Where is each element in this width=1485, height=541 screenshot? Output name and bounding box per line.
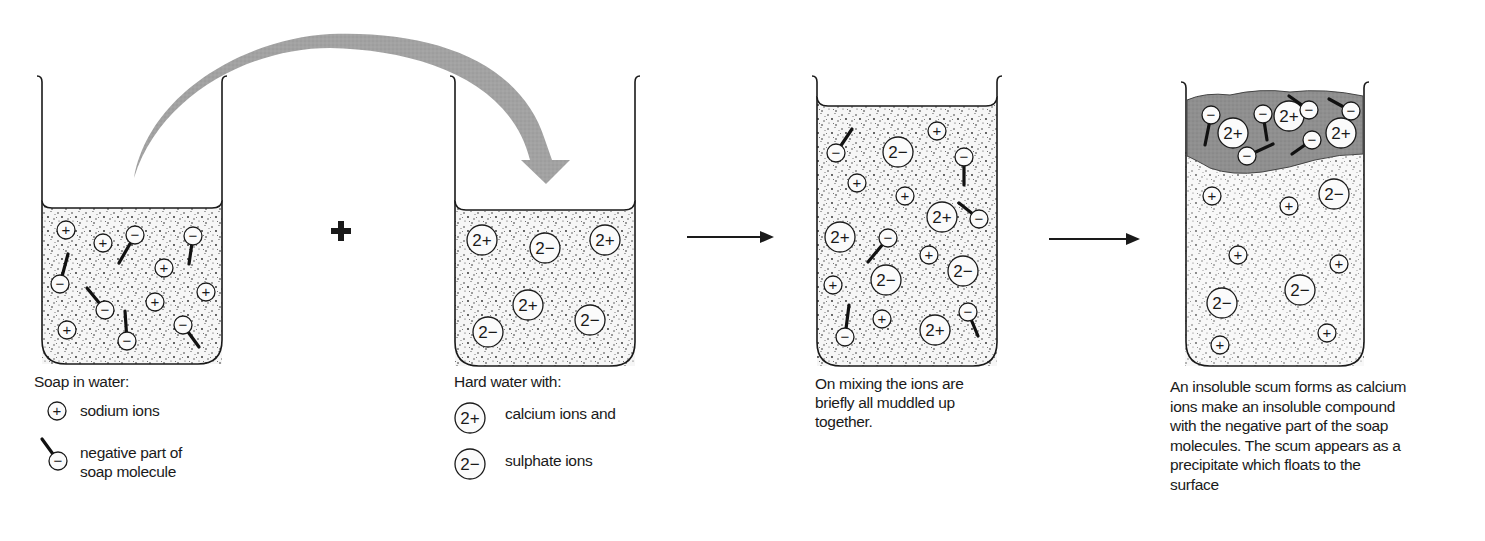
- calcium-ion: 2+: [455, 403, 485, 433]
- svg-text:2−: 2−: [460, 455, 479, 474]
- svg-text:+: +: [53, 402, 62, 419]
- sulphate-ion: 2−: [455, 449, 485, 479]
- svg-text:−: −: [54, 452, 63, 469]
- soap-ion: −: [42, 439, 67, 470]
- sodium-ion: +: [48, 402, 66, 420]
- legend-symbols: +−2+2−: [0, 0, 1485, 541]
- svg-text:2+: 2+: [460, 409, 479, 428]
- diagram-stage: ++++++−−−−−− 2+2−2+2+2−2− ++++++2−2+2+2−…: [0, 0, 1485, 541]
